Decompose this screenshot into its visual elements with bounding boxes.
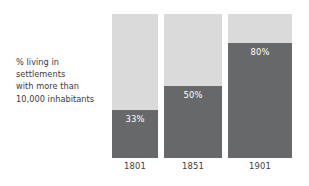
- bar-track-1901: 80%: [228, 14, 292, 158]
- bar-value-1901: 80%: [228, 47, 292, 57]
- bar-value-1851: 50%: [164, 90, 222, 100]
- bar-group-1901: 80% 1901: [228, 14, 292, 158]
- chart-figure: % living in settlements with more than 1…: [0, 0, 309, 186]
- bar-track-1851: 50%: [164, 14, 222, 158]
- bar-category-1851: 1851: [164, 161, 222, 171]
- bar-fill-1801: 33%: [112, 110, 158, 158]
- bar-category-1901: 1901: [228, 161, 292, 171]
- bar-fill-1851: 50%: [164, 86, 222, 158]
- bar-fill-1901: 80%: [228, 43, 292, 158]
- bar-track-1801: 33%: [112, 14, 158, 158]
- plot-area: 33% 1801 50% 1851 80% 1901: [0, 0, 309, 186]
- bar-category-1801: 1801: [112, 161, 158, 171]
- bar-group-1801: 33% 1801: [112, 14, 158, 158]
- bar-group-1851: 50% 1851: [164, 14, 222, 158]
- bar-value-1801: 33%: [112, 114, 158, 124]
